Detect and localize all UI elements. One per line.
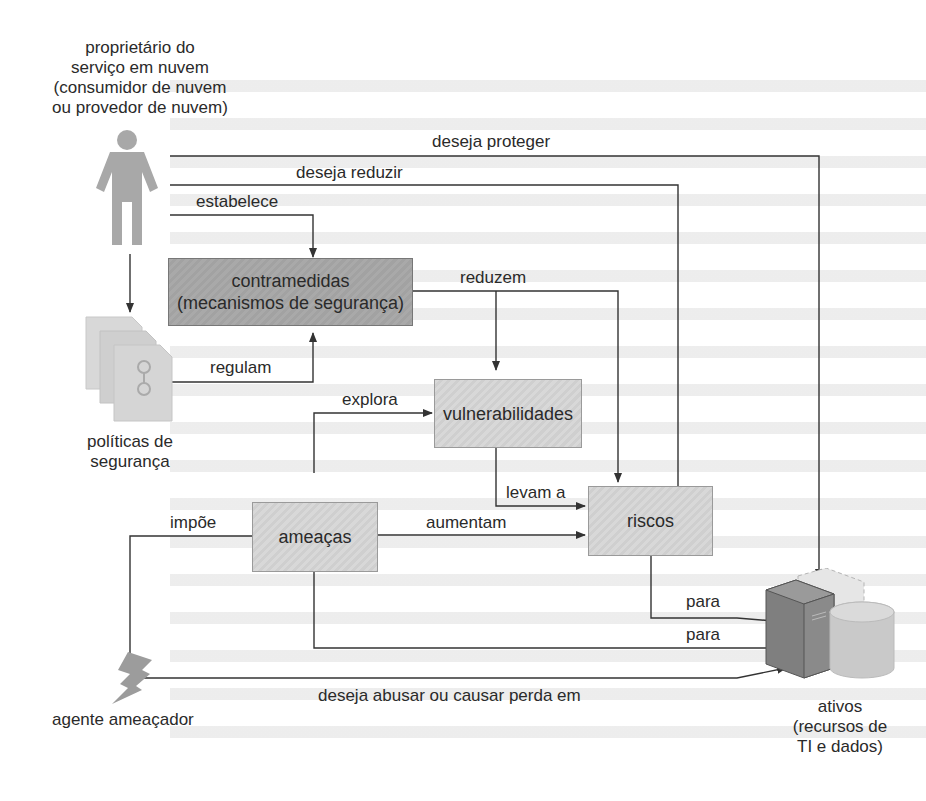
person-icon (92, 130, 162, 245)
edge-label-exploits: explora (342, 390, 398, 410)
owner-label-line: serviço em nuvem (40, 58, 240, 78)
vulnerabilities-box: vulnerabilidades (434, 379, 582, 448)
owner-label-line: proprietário do (40, 38, 240, 58)
policies-label-line: políticas de (70, 432, 190, 452)
countermeasures-subtitle: (mecanismos de segurança) (177, 292, 404, 314)
threat-agent-label: agente ameaçador (52, 710, 194, 730)
edge-label-regulate: regulam (210, 358, 271, 378)
assets-label-line: TI e dados) (770, 737, 910, 757)
edge-label-impose: impõe (170, 513, 216, 533)
edge-label-to-2: para (686, 625, 720, 645)
edge-label-wants-to-reduce: deseja reduzir (296, 163, 403, 183)
policies-label: políticas de segurança (70, 432, 190, 472)
edge-label-wants-to-abuse: deseja abusar ou causar perda em (318, 686, 581, 706)
edge-label-establishes: estabelece (196, 192, 278, 212)
server-database-icon (764, 568, 904, 692)
edge-label-lead-to: levam a (506, 483, 566, 503)
vulnerabilities-label: vulnerabilidades (443, 403, 573, 425)
edge-label-to-1: para (686, 592, 720, 612)
assets-label-line: ativos (770, 697, 910, 717)
owner-label: proprietário do serviço em nuvem (consum… (40, 38, 240, 118)
threats-label: ameaças (278, 526, 351, 548)
lightning-icon (110, 652, 154, 704)
owner-label-line: ou provedor de nuvem) (40, 98, 240, 118)
edge-label-reduce: reduzem (460, 268, 526, 288)
edge-label-wants-to-protect: deseja proteger (432, 132, 550, 152)
policies-label-line: segurança (70, 452, 190, 472)
documents-icon (84, 315, 176, 425)
risks-box: riscos (588, 486, 713, 556)
assets-label: ativos (recursos de TI e dados) (770, 697, 910, 757)
threats-box: ameaças (252, 502, 378, 572)
countermeasures-box: contramedidas (mecanismos de segurança) (168, 258, 413, 326)
edge-label-increase: aumentam (426, 513, 506, 533)
countermeasures-title: contramedidas (177, 270, 404, 292)
risks-label: riscos (627, 510, 674, 532)
assets-label-line: (recursos de (770, 717, 910, 737)
owner-label-line: (consumidor de nuvem (40, 78, 240, 98)
